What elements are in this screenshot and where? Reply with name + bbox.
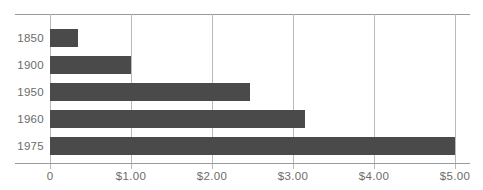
y-tick-label-1900: 1900 — [0, 56, 44, 74]
x-tick-label-5: $5.00 — [440, 170, 470, 182]
y-tick-label-1850: 1850 — [0, 29, 44, 47]
x-axis-rule — [15, 163, 470, 164]
bar-1975 — [50, 137, 455, 155]
bar-1960 — [50, 110, 305, 128]
bar-1950 — [50, 83, 250, 101]
y-tick-label-text: 1975 — [0, 137, 44, 155]
bar-1850 — [50, 29, 78, 47]
y-tick-label-1950: 1950 — [0, 83, 44, 101]
bar-1900 — [50, 56, 131, 74]
x-tick-label-1: $1.00 — [116, 170, 146, 182]
y-tick-label-1960: 1960 — [0, 110, 44, 128]
y-tick-label-text: 1950 — [0, 83, 44, 101]
x-tick-label-2: $2.00 — [197, 170, 227, 182]
y-tick-label-text: 1960 — [0, 110, 44, 128]
x-tick-label-3: $3.00 — [278, 170, 308, 182]
chart-top-rule — [15, 14, 470, 15]
y-tick-label-text: 1850 — [0, 29, 44, 47]
gridline-5 — [455, 14, 456, 169]
x-tick-label-0: 0 — [47, 170, 54, 182]
y-tick-label-1975: 1975 — [0, 137, 44, 155]
bar-chart: 1850 1900 1950 1960 1975 0 $1.00 $2.00 $… — [0, 0, 483, 190]
y-tick-label-text: 1900 — [0, 56, 44, 74]
x-tick-label-4: $4.00 — [359, 170, 389, 182]
